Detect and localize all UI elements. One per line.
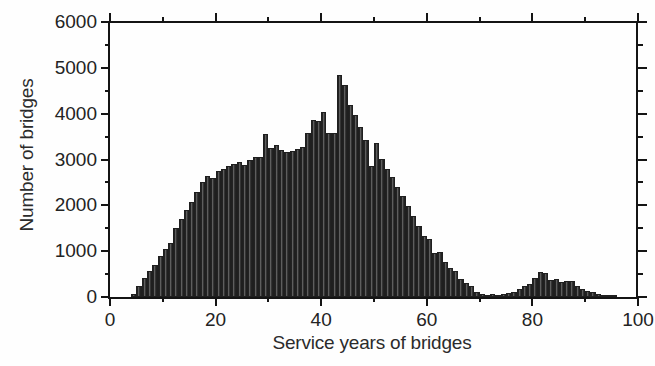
y-axis-minor-tick-right — [638, 181, 643, 183]
x-axis-tick — [426, 297, 428, 306]
y-axis-tick-label: 3000 — [55, 149, 97, 171]
x-axis-tick-top — [426, 13, 428, 22]
x-axis-minor-tick-top — [479, 17, 481, 22]
x-axis-tick-label: 60 — [416, 309, 437, 331]
y-axis-tick — [101, 67, 110, 69]
y-axis-tick-right — [638, 21, 647, 23]
y-axis-minor-tick-right — [638, 227, 643, 229]
y-axis-minor-tick-right — [638, 44, 643, 46]
x-axis-tick-top — [215, 13, 217, 22]
y-axis-tick-right — [638, 250, 647, 252]
x-axis-minor-tick — [162, 297, 164, 302]
y-axis-tick-label: 6000 — [55, 11, 97, 33]
histogram-bars — [110, 22, 638, 297]
y-axis-tick — [101, 159, 110, 161]
y-axis-minor-tick-right — [638, 136, 643, 138]
y-axis-tick-right — [638, 113, 647, 115]
y-axis-minor-tick-right — [638, 273, 643, 275]
histogram-figure: Number of bridges 0100020003000400050006… — [0, 0, 655, 366]
y-axis-minor-tick — [105, 136, 110, 138]
x-axis-tick — [637, 297, 639, 306]
x-axis-tick-label: 40 — [311, 309, 332, 331]
x-axis-tick — [531, 297, 533, 306]
y-axis-tick-label: 0 — [86, 286, 97, 308]
x-axis-tick-label: 100 — [622, 309, 654, 331]
x-axis-minor-tick-top — [267, 17, 269, 22]
y-axis-tick-right — [638, 67, 647, 69]
histogram-bar — [612, 295, 617, 297]
x-axis-minor-tick-top — [162, 17, 164, 22]
y-axis-tick-label: 4000 — [55, 103, 97, 125]
plot-area: 0100020003000400050006000020406080100 — [108, 22, 638, 299]
x-axis-minor-tick — [584, 297, 586, 302]
y-axis-minor-tick — [105, 44, 110, 46]
x-axis-tick — [215, 297, 217, 306]
y-axis-tick-right — [638, 296, 647, 298]
x-axis-title: Service years of bridges — [108, 332, 636, 354]
x-axis-tick-top — [109, 13, 111, 22]
y-axis-minor-tick — [105, 181, 110, 183]
x-axis-minor-tick — [479, 297, 481, 302]
x-axis-tick — [320, 297, 322, 306]
y-axis-minor-tick — [105, 227, 110, 229]
x-axis-tick-label: 0 — [105, 309, 116, 331]
y-axis-tick-right — [638, 204, 647, 206]
y-axis-minor-tick — [105, 273, 110, 275]
x-axis-tick-label: 80 — [522, 309, 543, 331]
y-axis-tick — [101, 204, 110, 206]
y-axis-tick-label: 2000 — [55, 194, 97, 216]
y-axis-title: Number of bridges — [10, 5, 44, 305]
y-axis-tick-label: 1000 — [55, 240, 97, 262]
x-axis-tick-top — [637, 13, 639, 22]
x-axis-minor-tick-top — [373, 17, 375, 22]
y-axis-tick-label: 5000 — [55, 57, 97, 79]
x-axis-minor-tick — [267, 297, 269, 302]
y-axis-minor-tick — [105, 90, 110, 92]
x-axis-minor-tick — [373, 297, 375, 302]
y-axis-tick-right — [638, 159, 647, 161]
x-axis-minor-tick-top — [584, 17, 586, 22]
y-axis-minor-tick-right — [638, 90, 643, 92]
y-axis-tick — [101, 250, 110, 252]
x-axis-tick — [109, 297, 111, 306]
x-axis-tick-top — [531, 13, 533, 22]
x-axis-tick-top — [320, 13, 322, 22]
y-axis-tick — [101, 113, 110, 115]
x-axis-tick-label: 20 — [205, 309, 226, 331]
